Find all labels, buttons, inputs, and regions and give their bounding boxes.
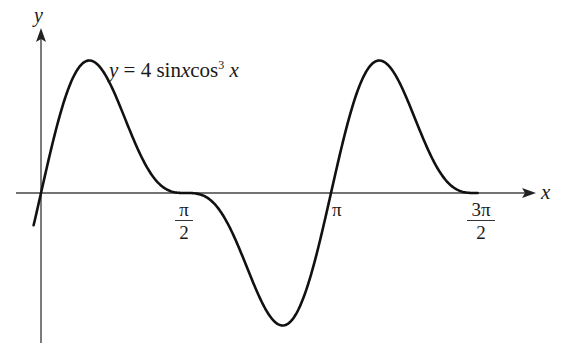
tick-num: 3π [471,200,490,219]
eq-y: y [109,58,118,82]
eq-x1: x [181,58,190,82]
equation-label: y = 4 sinxcos3 x [109,58,239,83]
tick-den: 2 [476,223,486,242]
tick-num: π [179,200,189,219]
plot-area [0,0,562,360]
fraction-bar [467,220,495,221]
x-axis-label: x [541,180,550,205]
tick-label-pi: π [332,199,342,221]
fraction-bar [175,220,193,221]
eq-equals: = [124,58,136,82]
eq-sin: sin [156,58,181,82]
eq-cos: cos [190,58,218,82]
eq-x2: x [230,58,239,82]
y-axis-label: y [34,4,43,27]
tick-label-3pi-over-2: 3π 2 [467,200,495,242]
tick-label-pi-over-2: π 2 [175,200,193,242]
eq-coef: 4 [141,58,152,82]
tick-den: 2 [179,223,189,242]
